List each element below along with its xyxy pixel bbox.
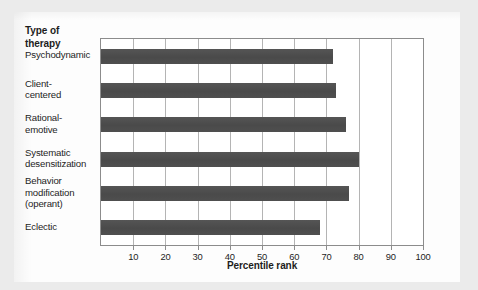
bar	[101, 49, 333, 64]
x-tick-mark-40	[230, 246, 231, 250]
bar	[101, 220, 320, 235]
plot-area	[100, 38, 424, 246]
bar	[101, 117, 346, 132]
gridline-60	[294, 39, 295, 245]
y-axis-title-line-1: Type of	[25, 25, 111, 38]
x-tick-mark-80	[359, 246, 360, 250]
bar	[101, 186, 349, 201]
y-axis-title: Type of therapy	[25, 25, 111, 50]
gridline-50	[262, 39, 263, 245]
gridline-10	[133, 39, 134, 245]
gridline-90	[391, 39, 392, 245]
x-tick-mark-100	[423, 246, 424, 250]
gridline-20	[165, 39, 166, 245]
x-axis-title: Percentile rank	[100, 260, 424, 271]
x-tick-mark-60	[294, 246, 295, 250]
gridline-80	[359, 39, 360, 245]
x-tick-mark-10	[133, 246, 134, 250]
gridline-30	[198, 39, 199, 245]
gridline-40	[230, 39, 231, 245]
x-tick-mark-70	[326, 246, 327, 250]
bar	[101, 83, 336, 98]
scanned-page-sheet: Type of therapy PsychodynamicClient-cent…	[14, 12, 460, 282]
bar	[101, 152, 359, 167]
y-axis-title-line-2: therapy	[25, 38, 111, 51]
bar-chart-figure: Type of therapy PsychodynamicClient-cent…	[14, 12, 460, 282]
x-tick-mark-50	[262, 246, 263, 250]
x-tick-mark-90	[391, 246, 392, 250]
x-tick-mark-30	[198, 246, 199, 250]
gridline-70	[326, 39, 327, 245]
x-tick-mark-20	[165, 246, 166, 250]
